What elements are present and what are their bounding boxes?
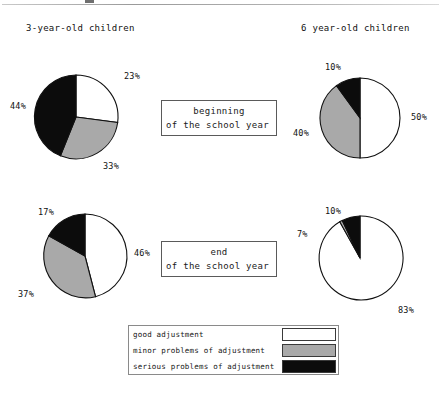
caption-box-beginning: beginning of the school year [161,100,277,136]
pie-svg [34,75,118,159]
pie4-label-minor: 7% [297,229,308,239]
pie4-label-good: 83% [398,305,414,315]
caption-beginning-line2: of the school year [159,118,276,132]
pie-svg [318,216,402,300]
caption-box-end: end of the school year [161,241,277,277]
legend-label-serious: serious problems of adjustment [133,362,274,371]
pie-slice-good [319,216,403,300]
legend-swatch-minor [282,344,336,357]
pie-slice-good [360,78,400,158]
pie3-label-serious: 17% [38,207,54,217]
pie-slice-good [76,75,118,123]
pie-svg [320,78,400,158]
pie2-label-minor: 40% [293,128,309,138]
column-title-right: 6 year-old children [301,23,410,33]
pie2-label-good: 50% [411,112,427,122]
pie-chart-six-year-end [318,216,402,300]
legend-row-serious: serious problems of adjustment [129,358,338,374]
pie-chart-three-year-end [43,214,127,298]
legend-label-good: good adjustment [133,330,204,339]
caption-end-line2: of the school year [159,259,276,273]
legend-swatch-serious [282,360,336,373]
pie-svg [43,214,127,298]
caption-beginning-line1: beginning [193,106,244,116]
legend-label-minor: minor problems of adjustment [133,346,265,355]
pie1-label-serious: 44% [10,101,26,111]
pie-chart-three-year-beginning [34,75,118,159]
pie2-label-serious: 10% [325,62,341,72]
legend-row-good: good adjustment [129,326,338,342]
pie-chart-six-year-beginning [320,78,400,158]
legend: good adjustment minor problems of adjust… [128,325,339,375]
column-title-left: 3-year-old children [26,23,135,33]
legend-swatch-good [282,328,336,341]
pie1-label-good: 23% [124,71,140,81]
pie4-label-serious: 10% [325,206,341,216]
legend-row-minor: minor problems of adjustment [129,342,338,358]
pie1-label-minor: 33% [103,161,119,171]
scan-artifact-line [2,4,439,5]
pie3-label-minor: 37% [18,289,34,299]
chart-page: 3-year-old children 6 year-old children … [0,0,441,397]
pie3-label-good: 46% [134,248,150,258]
scan-artifact-blip [85,0,94,3]
caption-end-line1: end [210,247,227,257]
